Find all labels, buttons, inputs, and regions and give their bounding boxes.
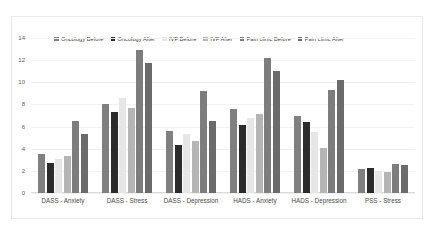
bar[interactable] xyxy=(303,122,310,193)
bar[interactable] xyxy=(247,118,254,193)
bar[interactable] xyxy=(294,116,301,194)
bar[interactable] xyxy=(384,172,391,193)
bar-group xyxy=(95,38,159,193)
bar[interactable] xyxy=(128,108,135,193)
bar[interactable] xyxy=(230,109,237,193)
y-axis-tick-label: 10 xyxy=(5,79,25,86)
bar[interactable] xyxy=(367,168,374,193)
bar-group xyxy=(159,38,223,193)
bar[interactable] xyxy=(102,104,109,193)
bar[interactable] xyxy=(64,156,71,193)
bar[interactable] xyxy=(239,125,246,193)
bar[interactable] xyxy=(392,164,399,193)
bar[interactable] xyxy=(337,80,344,193)
y-axis-tick-label: 8 xyxy=(5,101,25,108)
bar[interactable] xyxy=(81,134,88,193)
bar[interactable] xyxy=(119,98,126,193)
x-axis-labels: DASS - AnxietyDASS - StressDASS - Depres… xyxy=(31,196,415,210)
bar[interactable] xyxy=(72,121,79,193)
x-axis-tick-label: DASS - Anxiety xyxy=(31,196,95,210)
bar[interactable] xyxy=(328,90,335,193)
bar[interactable] xyxy=(136,50,143,193)
bar[interactable] xyxy=(273,71,280,193)
bar[interactable] xyxy=(183,134,190,193)
y-axis-tick-label: 6 xyxy=(5,123,25,130)
bar-group xyxy=(223,38,287,193)
bar[interactable] xyxy=(375,171,382,193)
bar-group xyxy=(31,38,95,193)
x-axis-tick-label: HADS - Anxiety xyxy=(223,196,287,210)
bar-chart-container: Oncology BeforeOncology AfterIVF BeforeI… xyxy=(0,0,435,233)
y-axis-tick-label: 14 xyxy=(5,35,25,42)
bar-group xyxy=(351,38,415,193)
bar[interactable] xyxy=(264,58,271,193)
x-axis-tick-label: HADS - Depression xyxy=(287,196,351,210)
bar[interactable] xyxy=(358,169,365,193)
bar[interactable] xyxy=(256,114,263,193)
plot-area: 02468101214 xyxy=(31,38,415,193)
bar[interactable] xyxy=(145,63,152,193)
bar[interactable] xyxy=(55,159,62,193)
x-axis-tick-label: PSS - Stress xyxy=(351,196,415,210)
bar-groups xyxy=(31,38,415,193)
x-axis-tick-label: DASS - Depression xyxy=(159,196,223,210)
bar[interactable] xyxy=(166,131,173,193)
bar[interactable] xyxy=(200,91,207,193)
y-axis-tick-label: 0 xyxy=(5,190,25,197)
bar[interactable] xyxy=(320,148,327,193)
bar[interactable] xyxy=(38,154,45,193)
bar[interactable] xyxy=(311,132,318,193)
bar[interactable] xyxy=(47,163,54,193)
bar[interactable] xyxy=(401,165,408,193)
y-axis-tick-label: 12 xyxy=(5,57,25,64)
bar[interactable] xyxy=(209,121,216,193)
y-axis-tick-label: 2 xyxy=(5,167,25,174)
bar[interactable] xyxy=(175,145,182,193)
y-axis-tick-label: 4 xyxy=(5,145,25,152)
bar[interactable] xyxy=(192,141,199,193)
bar[interactable] xyxy=(111,112,118,193)
gridline xyxy=(31,193,415,194)
bar-group xyxy=(287,38,351,193)
x-axis-tick-label: DASS - Stress xyxy=(95,196,159,210)
